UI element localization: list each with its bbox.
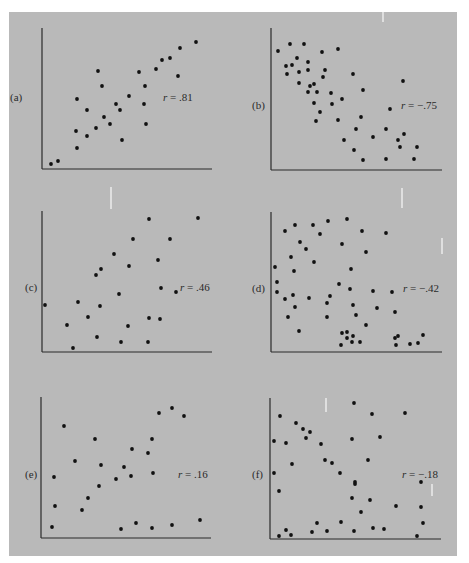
data-point [277,534,281,538]
data-point [277,489,281,493]
correlation-label: r = −.18 [402,468,438,480]
data-point [366,458,370,462]
data-point [350,437,354,441]
data-point [289,533,293,537]
data-point [310,530,314,534]
data-point [330,461,334,465]
data-point [352,401,356,405]
data-point [368,498,372,502]
data-point [294,421,298,425]
data-point [370,412,374,416]
panel-label: (f) [252,468,263,480]
data-point [339,520,343,524]
data-point [415,534,419,538]
data-point [272,439,276,443]
data-point [319,442,323,446]
scatter-plot [0,0,469,563]
data-point [278,414,282,418]
data-point [315,521,319,525]
data-point [382,527,386,531]
data-point [353,482,357,486]
data-point [325,529,329,533]
data-point [378,435,382,439]
data-point [419,480,423,484]
data-point [394,504,398,508]
data-point [371,526,375,530]
data-point [301,427,305,431]
data-point [272,471,276,475]
data-point [284,441,288,445]
data-point [419,505,423,509]
data-point [290,462,294,466]
data-point [403,411,407,415]
data-point [308,430,312,434]
data-point [323,458,327,462]
data-point [284,528,288,532]
data-point [421,521,425,525]
data-point [304,436,308,440]
data-point [359,510,363,514]
data-point [350,496,354,500]
data-point [352,529,356,533]
data-point [338,471,342,475]
